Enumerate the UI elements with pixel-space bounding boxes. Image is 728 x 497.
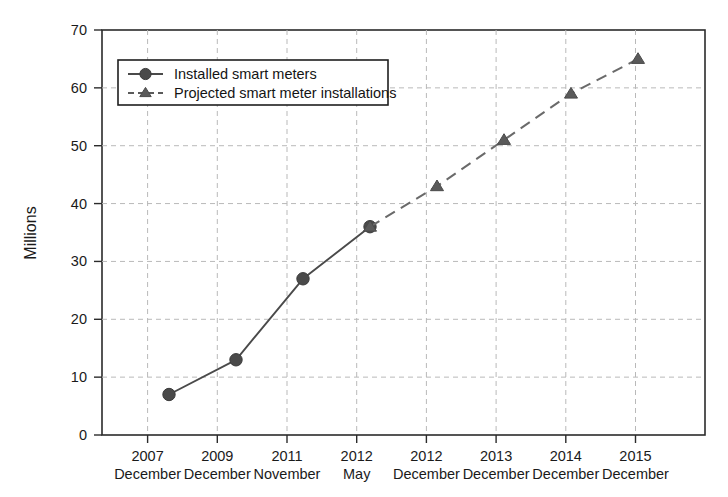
xtick-label-year-3: 2012 — [341, 448, 373, 464]
chart-container: 0 10 20 30 40 50 60 70 Millions 2007 Dec… — [0, 0, 728, 497]
ytick-label-20: 20 — [71, 311, 87, 327]
xtick-label-year-5: 2013 — [480, 448, 512, 464]
xtick-label-month-4: December — [393, 466, 460, 482]
ytick-label-50: 50 — [71, 138, 87, 154]
line-chart: 0 10 20 30 40 50 60 70 Millions 2007 Dec… — [0, 0, 728, 497]
xtick-label-month-3: May — [343, 466, 371, 482]
chart-legend: Installed smart meters Projected smart m… — [118, 60, 396, 105]
ytick-label-60: 60 — [71, 80, 87, 96]
circle-marker-icon — [163, 388, 175, 400]
circle-marker-icon — [297, 273, 309, 285]
xtick-label-month-0: December — [114, 466, 181, 482]
ytick-label-70: 70 — [71, 22, 87, 38]
y-axis-title: Millions — [22, 206, 39, 259]
xtick-label-month-5: December — [463, 466, 530, 482]
circle-marker-icon — [230, 354, 242, 366]
legend-label-projected: Projected smart meter installations — [174, 85, 396, 101]
xtick-label-year-7: 2015 — [619, 448, 651, 464]
ytick-label-40: 40 — [71, 196, 87, 212]
xtick-label-month-1: December — [184, 466, 251, 482]
xtick-label-month-7: December — [602, 466, 669, 482]
xtick-label-year-2: 2011 — [271, 448, 302, 464]
y-axis: 0 10 20 30 40 50 60 70 — [71, 22, 102, 443]
circle-marker-icon — [140, 68, 151, 79]
xtick-label-year-1: 2009 — [201, 448, 233, 464]
xtick-label-month-6: December — [532, 466, 599, 482]
xtick-label-year-6: 2014 — [550, 448, 582, 464]
ytick-label-10: 10 — [71, 369, 87, 385]
legend-label-installed: Installed smart meters — [174, 66, 317, 82]
xtick-label-year-0: 2007 — [131, 448, 163, 464]
x-axis: 2007 December 2009 December 2011 Novembe… — [114, 435, 669, 482]
xtick-label-month-2: November — [254, 466, 321, 482]
xtick-label-year-4: 2012 — [410, 448, 442, 464]
ytick-label-0: 0 — [79, 427, 87, 443]
ytick-label-30: 30 — [71, 253, 87, 269]
